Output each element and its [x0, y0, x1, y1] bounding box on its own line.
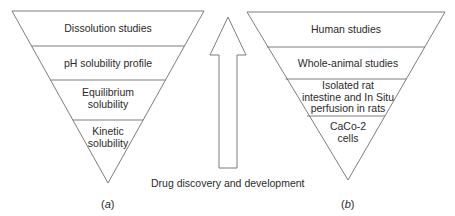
- tier-text: pH solubility profile: [64, 57, 152, 69]
- funnel-b-tier-4: CaCo-2 cells: [310, 120, 386, 144]
- panel-label-a: (a): [101, 198, 114, 210]
- panel-label-b: (b): [341, 198, 354, 210]
- funnel-b-tier-3: Isolated rat intestine and In Situ perfu…: [286, 80, 410, 115]
- tier-text-line2: solubility: [70, 137, 146, 149]
- panel-label-close: ): [351, 198, 355, 210]
- tier-text-line1: CaCo-2: [310, 120, 386, 132]
- tier-text-line1: Isolated rat: [286, 80, 410, 92]
- tier-text: Human studies: [311, 23, 381, 35]
- panel-label-close: ): [111, 198, 115, 210]
- funnel-b-tier-1: Human studies: [256, 23, 436, 35]
- funnel-a-tier-3: Equilibrium solubility: [56, 86, 160, 110]
- tier-text-line3: perfusion in rats: [286, 103, 410, 115]
- tier-text-line1: Equilibrium: [56, 86, 160, 98]
- tier-text-line1: Kinetic: [70, 125, 146, 137]
- tier-text: Whole-animal studies: [298, 57, 398, 69]
- tier-text-line2: solubility: [56, 98, 160, 110]
- arrow-caption: Drug discovery and development: [151, 177, 305, 189]
- arrow-up-icon: [210, 17, 246, 168]
- funnel-a-tier-2: pH solubility profile: [36, 57, 180, 69]
- funnel-a-tier-1: Dissolution studies: [18, 22, 198, 34]
- tier-text: Dissolution studies: [64, 22, 152, 34]
- funnel-a-tier-4: Kinetic solubility: [70, 125, 146, 149]
- tier-text-line2: cells: [310, 132, 386, 144]
- funnel-b-tier-2: Whole-animal studies: [276, 57, 420, 69]
